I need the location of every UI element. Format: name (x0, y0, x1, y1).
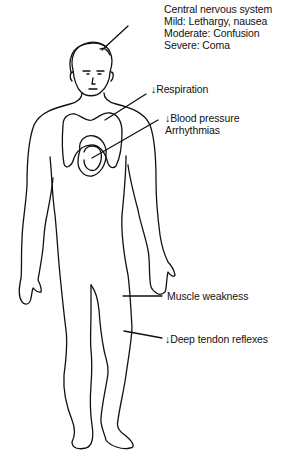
cns-moderate: Moderate: Confusion (164, 27, 272, 39)
torso-left (50, 157, 93, 449)
leader-reflexes (124, 331, 162, 338)
heart-outline (78, 136, 106, 176)
reflexes-label: ↓Deep tendon reflexes (165, 333, 268, 345)
leader-respiration (105, 94, 146, 120)
cns-mild: Mild: Lethargy, nausea (164, 15, 272, 27)
cardiovascular-label: ↓Blood pressure Arrhythmias (165, 112, 239, 136)
cns-label: Central nervous system Mild: Lethargy, n… (164, 3, 272, 51)
lungs-outline (62, 113, 122, 168)
cns-title: Central nervous system (164, 3, 272, 15)
respiration-label: ↓Respiration (151, 83, 208, 95)
ear-icon (70, 72, 113, 81)
human-body-diagram (0, 0, 282, 465)
head-outline (72, 42, 112, 95)
body-outline-left (19, 93, 82, 304)
torso-right (91, 156, 133, 449)
cns-severe: Severe: Coma (164, 39, 272, 51)
muscle-weakness-label: Muscle weakness (167, 290, 248, 302)
face-features (83, 71, 104, 89)
leader-cns (102, 26, 128, 50)
blood-pressure-text: ↓Blood pressure (165, 112, 239, 124)
arrhythmias-text: Arrhythmias (165, 124, 239, 136)
leader-cardio (92, 120, 158, 158)
